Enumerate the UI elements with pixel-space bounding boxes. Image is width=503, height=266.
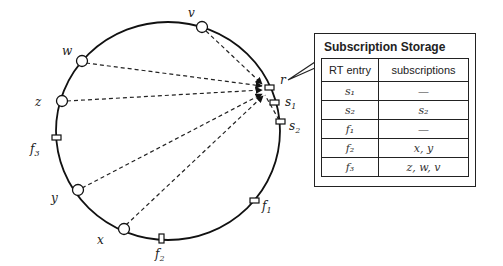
routing-table: RT entry subscriptions s₁ — s₂ s₂ f₁ — f…	[321, 58, 469, 177]
label-z: z	[34, 95, 42, 109]
table-row: s₂ s₂	[322, 101, 469, 120]
label-x: x	[97, 233, 104, 247]
cell-subscriptions: —	[379, 120, 469, 139]
callout-pointer	[288, 62, 315, 80]
label-y: y	[50, 191, 58, 205]
ring	[56, 22, 280, 240]
cell-entry: s₁	[322, 82, 379, 101]
node-v	[197, 22, 208, 33]
entry-r	[265, 85, 274, 90]
cell-subscriptions: —	[379, 82, 469, 101]
cell-entry: f₁	[322, 120, 379, 139]
label-f3: f3	[29, 142, 40, 158]
subscription-lines	[67, 31, 279, 225]
header-subscriptions: subscriptions	[379, 59, 469, 82]
storage-title: Subscription Storage	[324, 40, 445, 54]
entry-s2	[276, 119, 285, 124]
label-w: w	[62, 44, 73, 58]
cell-subscriptions: z, w, v	[379, 158, 469, 177]
label-s1: s1	[285, 95, 296, 111]
cell-subscriptions: s₂	[379, 101, 469, 120]
node-w	[77, 56, 88, 67]
cell-entry: f₃	[322, 158, 379, 177]
table-row: f₂ x, y	[322, 139, 469, 158]
entry-s1	[270, 100, 279, 105]
header-rt-entry: RT entry	[322, 59, 379, 82]
label-f2: f2	[154, 247, 165, 263]
entry-f2	[159, 234, 164, 243]
subscription-storage-callout: Subscription Storage RT entry subscripti…	[314, 33, 476, 187]
entry-f1	[250, 198, 259, 203]
table-row: f₁ —	[322, 120, 469, 139]
table-row: f₃ z, w, v	[322, 158, 469, 177]
cell-entry: s₂	[322, 101, 379, 120]
table-row: s₁ —	[322, 82, 469, 101]
label-f1: f1	[261, 199, 272, 215]
node-y	[73, 185, 84, 196]
node-x	[119, 224, 130, 235]
cell-subscriptions: x, y	[379, 139, 469, 158]
entry-f3	[52, 135, 61, 140]
label-s2: s2	[289, 119, 300, 135]
label-v: v	[188, 6, 195, 20]
cell-entry: f₂	[322, 139, 379, 158]
node-z	[57, 96, 68, 107]
label-r: r	[280, 73, 287, 87]
table-header-row: RT entry subscriptions	[322, 59, 469, 82]
